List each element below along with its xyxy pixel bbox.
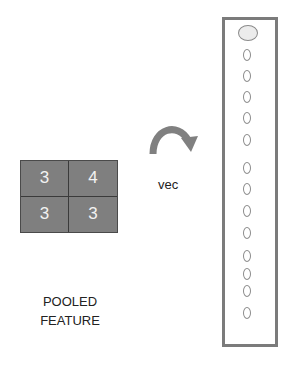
vector-node (243, 268, 251, 280)
vec-operation-label: vec (158, 177, 178, 192)
vector-node (243, 307, 251, 319)
pooled-feature-grid: 3 4 3 3 (20, 160, 118, 233)
vector-node (243, 112, 251, 124)
vector-node (243, 183, 251, 195)
vector-node (243, 162, 251, 174)
curved-arrow-right-icon (148, 118, 203, 156)
vector-node (243, 91, 251, 103)
vector-node (243, 205, 251, 217)
flattened-vector (222, 17, 278, 347)
grid-cell: 3 (21, 197, 69, 233)
grid-cell: 3 (21, 161, 69, 197)
grid-cell: 3 (69, 197, 117, 233)
vector-node (243, 70, 251, 82)
vector-node (243, 227, 251, 239)
vector-node (243, 49, 251, 61)
pooled-label-line2: FEATURE (30, 311, 110, 330)
pooled-feature-label: POOLED FEATURE (30, 292, 110, 330)
vector-node (243, 285, 251, 297)
bias-node (238, 25, 258, 41)
grid-cell: 4 (69, 161, 117, 197)
pooled-label-line1: POOLED (30, 292, 110, 311)
vector-node (243, 250, 251, 262)
vector-node (243, 134, 251, 146)
